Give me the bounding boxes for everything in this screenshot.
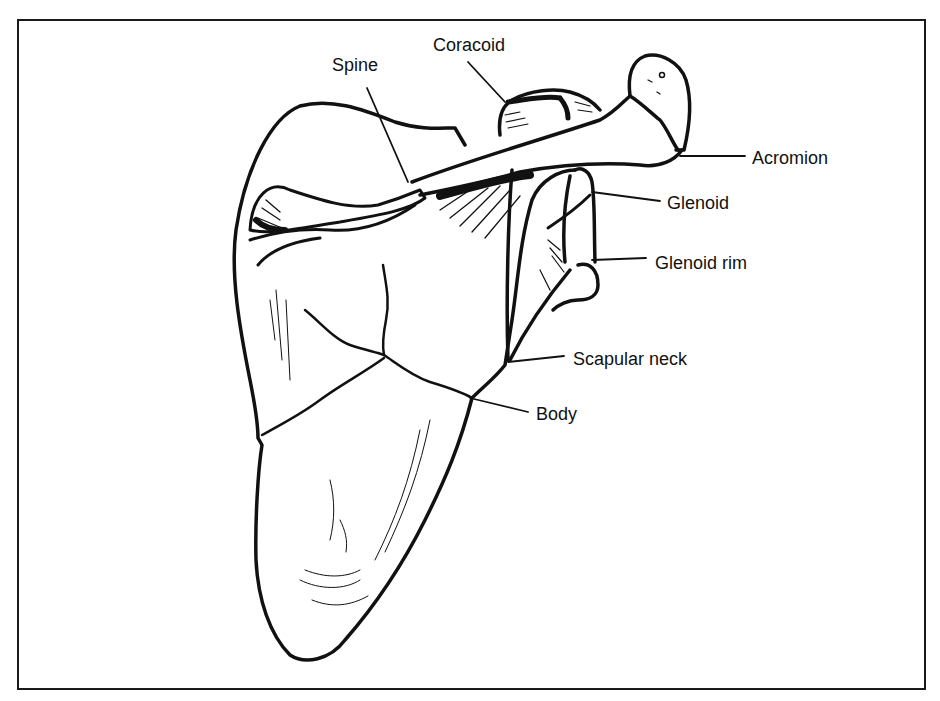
leader-glenoid-rim: [592, 258, 646, 260]
leader-scapular-neck: [508, 356, 564, 362]
leader-body: [470, 398, 528, 412]
label-body: Body: [536, 405, 577, 423]
acromion-shape: [629, 55, 689, 150]
label-glenoid-rim: Glenoid rim: [655, 254, 747, 272]
leader-glenoid: [592, 192, 660, 201]
label-acromion: Acromion: [752, 149, 828, 167]
label-spine: Spine: [332, 56, 378, 74]
leader-coracoid: [468, 62, 505, 102]
leader-spine: [367, 88, 408, 182]
fracture-lines: [262, 265, 472, 435]
label-glenoid: Glenoid: [667, 194, 729, 212]
scapula-outline: [234, 96, 682, 660]
label-coracoid: Coracoid: [433, 36, 505, 54]
coracoid-shape: [500, 90, 601, 135]
scapula-illustration: [0, 0, 940, 701]
label-scapular-neck: Scapular neck: [573, 350, 687, 368]
